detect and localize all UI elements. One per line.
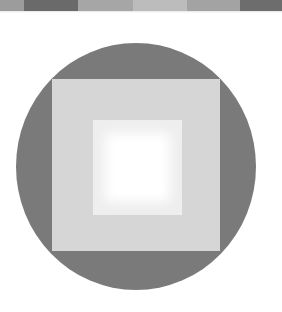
top-gray-strip: [0, 0, 282, 11]
strip-fade: [0, 11, 282, 13]
strip-band-3: [78, 0, 133, 11]
strip-band-2: [24, 0, 78, 11]
white-inner-square: [93, 120, 182, 215]
white-center-glow: [105, 133, 170, 202]
strip-band-6: [240, 0, 282, 11]
strip-band-5: [187, 0, 240, 11]
strip-band-4: [133, 0, 187, 11]
strip-band-1: [0, 0, 24, 11]
